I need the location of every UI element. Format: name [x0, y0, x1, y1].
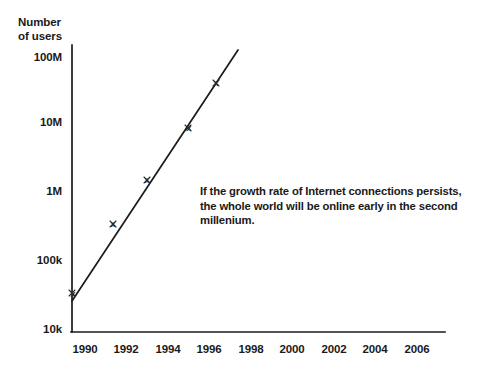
- y-tick-label: 10k: [0, 323, 62, 335]
- x-tick-2000: 2000: [270, 343, 314, 355]
- x-tick-1990: 1990: [63, 343, 107, 355]
- y-tick-label: 10M: [0, 116, 62, 128]
- x-tick-2004: 2004: [353, 343, 397, 355]
- data-point-label: x: [70, 289, 75, 299]
- data-point-label: x: [110, 219, 115, 229]
- chart-figure: Number of users 100M 10M 1M 100k 10k 199…: [0, 0, 477, 380]
- x-tick-1992: 1992: [104, 343, 148, 355]
- x-tick-2006: 2006: [395, 343, 439, 355]
- y-axis-title: Number of users: [18, 16, 62, 43]
- x-tick-1996: 1996: [187, 343, 231, 355]
- x-tick-1998: 1998: [229, 343, 273, 355]
- data-point-label: x: [213, 78, 218, 88]
- x-tick-2002: 2002: [312, 343, 356, 355]
- chart-annotation: If the growth rate of Internet connectio…: [200, 184, 462, 228]
- y-tick-label: 100k: [0, 254, 62, 266]
- data-point-label: x: [144, 175, 149, 185]
- data-point-label: x: [186, 123, 191, 133]
- x-tick-1994: 1994: [146, 343, 190, 355]
- y-tick-label: 100M: [0, 51, 62, 63]
- y-tick-label: 1M: [0, 185, 62, 197]
